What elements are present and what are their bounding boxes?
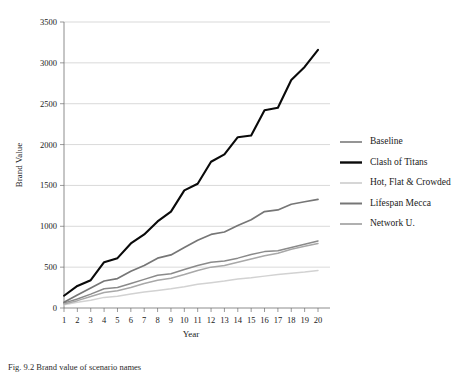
ytick-label-3500: 3500 (40, 17, 57, 27)
xtick-label-12: 12 (207, 315, 216, 325)
xtick-label-9: 9 (169, 315, 173, 325)
legend-label-clash-of-titans: Clash of Titans (370, 157, 428, 167)
xtick-label-17: 17 (274, 315, 283, 325)
ytick-label-3000: 3000 (40, 58, 57, 68)
legend-label-network-u: Network U. (370, 218, 415, 228)
y-axis-title: Brand Value (14, 143, 24, 188)
xtick-label-1: 1 (62, 315, 66, 325)
xtick-label-15: 15 (247, 315, 256, 325)
xtick-label-6: 6 (129, 315, 133, 325)
xtick-label-10: 10 (180, 315, 189, 325)
xtick-label-7: 7 (142, 315, 146, 325)
series-line-clash-of-titans (64, 50, 318, 296)
legend-label-lifespan-mecca: Lifespan Mecca (370, 198, 432, 208)
xtick-label-3: 3 (89, 315, 93, 325)
ytick-label-2000: 2000 (40, 140, 57, 150)
xtick-label-2: 2 (75, 315, 79, 325)
xtick-label-14: 14 (234, 315, 243, 325)
xtick-label-11: 11 (194, 315, 202, 325)
figure-caption: Fig. 9.2 Brand value of scenario names (8, 362, 141, 372)
xtick-label-19: 19 (300, 315, 309, 325)
legend-label-baseline: Baseline (370, 136, 403, 146)
ytick-label-1000: 1000 (40, 221, 57, 231)
xtick-label-5: 5 (115, 315, 119, 325)
x-axis-title: Year (183, 329, 200, 339)
xtick-label-18: 18 (287, 315, 296, 325)
ytick-label-1500: 1500 (40, 180, 57, 190)
legend-label-hot-flat-crowded: Hot, Flat & Crowded (370, 177, 451, 187)
ytick-label-0: 0 (53, 303, 57, 313)
series-line-hot-flat-crowded (64, 270, 318, 304)
xtick-label-4: 4 (102, 315, 107, 325)
xtick-label-13: 13 (220, 315, 229, 325)
ytick-label-500: 500 (44, 262, 57, 272)
xtick-label-20: 20 (314, 315, 323, 325)
ytick-label-2500: 2500 (40, 99, 57, 109)
xtick-label-8: 8 (155, 315, 159, 325)
xtick-label-16: 16 (260, 315, 269, 325)
